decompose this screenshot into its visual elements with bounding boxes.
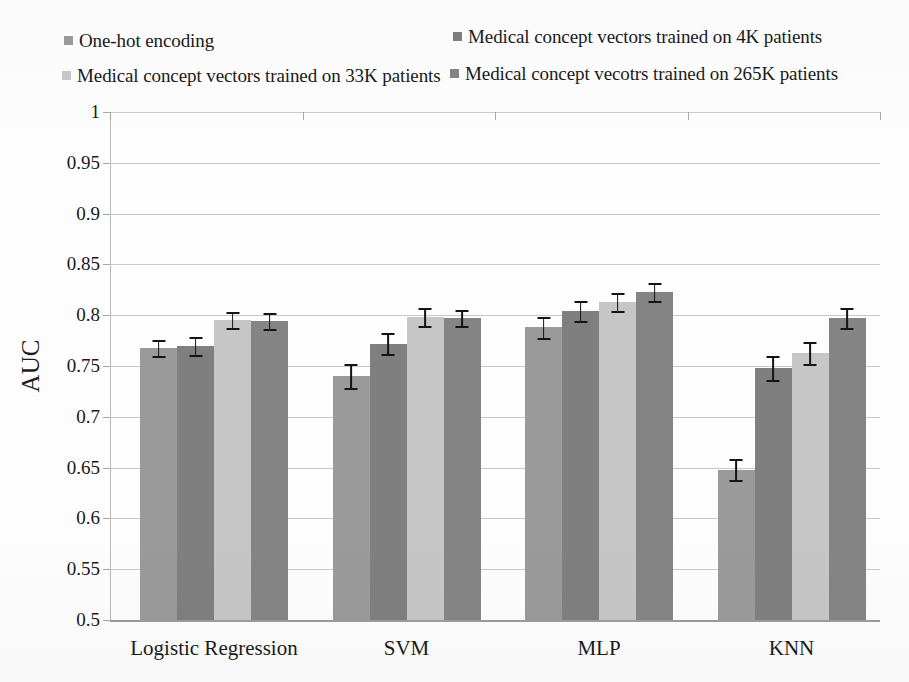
error-bar-cap-top bbox=[841, 308, 854, 310]
error-bar bbox=[232, 312, 234, 328]
bar[interactable] bbox=[140, 112, 177, 620]
bar[interactable] bbox=[718, 112, 755, 620]
y-axis-title-text: AUC bbox=[17, 340, 45, 393]
y-axis-tick-label: 0.6 bbox=[76, 507, 100, 529]
error-bar-cap-top bbox=[456, 310, 469, 312]
legend-label-33k: Medical concept vectors trained on 33K p… bbox=[77, 66, 441, 85]
error-bar-cap-top bbox=[804, 342, 817, 344]
error-bar bbox=[195, 337, 197, 355]
y-axis-tick-label: 0.7 bbox=[76, 406, 100, 428]
y-axis-tick-label: 0.75 bbox=[67, 355, 100, 377]
error-bar-cap-bottom bbox=[648, 301, 661, 303]
x-axis-tick-mark bbox=[688, 112, 689, 120]
bar[interactable] bbox=[599, 112, 636, 620]
bar-rect bbox=[829, 318, 866, 620]
y-axis-tick-mark bbox=[103, 620, 110, 621]
bar[interactable] bbox=[407, 112, 444, 620]
error-bar-cap-top bbox=[537, 317, 550, 319]
error-bar bbox=[350, 364, 352, 388]
legend-label-265k: Medical concept vecotrs trained on 265K … bbox=[465, 64, 838, 83]
bar-group bbox=[140, 112, 288, 620]
bar[interactable] bbox=[792, 112, 829, 620]
legend-swatch-one-hot-icon bbox=[64, 36, 73, 45]
y-axis-tick-mark bbox=[103, 468, 110, 469]
y-axis-tick-mark bbox=[103, 264, 110, 265]
error-bar bbox=[158, 340, 160, 356]
bar[interactable] bbox=[370, 112, 407, 620]
bar[interactable] bbox=[636, 112, 673, 620]
bar[interactable] bbox=[562, 112, 599, 620]
x-axis-tick-mark bbox=[303, 112, 304, 120]
bar-rect bbox=[370, 344, 407, 620]
legend-swatch-265k-icon bbox=[450, 69, 459, 78]
x-axis-line bbox=[110, 620, 880, 622]
error-bar bbox=[580, 301, 582, 321]
error-bar bbox=[809, 342, 811, 364]
bar-rect bbox=[444, 318, 481, 620]
legend-item-4k-patients[interactable]: Medical concept vectors trained on 4K pa… bbox=[453, 27, 822, 46]
bar[interactable] bbox=[755, 112, 792, 620]
error-bar-cap-top bbox=[189, 337, 202, 339]
error-bar-cap-bottom bbox=[611, 311, 624, 313]
error-bar-cap-top bbox=[263, 313, 276, 315]
legend-swatch-4k-icon bbox=[453, 32, 462, 41]
bar[interactable] bbox=[214, 112, 251, 620]
error-bar bbox=[269, 313, 271, 329]
error-bar-cap-bottom bbox=[152, 356, 165, 358]
y-axis-tick-mark bbox=[103, 417, 110, 418]
bar-rect bbox=[214, 320, 251, 620]
bar[interactable] bbox=[525, 112, 562, 620]
bar[interactable] bbox=[829, 112, 866, 620]
bar[interactable] bbox=[333, 112, 370, 620]
error-bar-cap-top bbox=[226, 312, 239, 314]
category-label: SVM bbox=[384, 636, 430, 661]
error-bar bbox=[846, 308, 848, 328]
y-axis-tick-label: 0.55 bbox=[67, 558, 100, 580]
error-bar-cap-top bbox=[767, 356, 780, 358]
y-axis-tick-label: 0.85 bbox=[67, 253, 100, 275]
error-bar bbox=[617, 293, 619, 311]
bar-group bbox=[718, 112, 866, 620]
error-bar-cap-bottom bbox=[263, 329, 276, 331]
error-bar bbox=[654, 283, 656, 301]
error-bar-cap-bottom bbox=[456, 326, 469, 328]
legend-item-one-hot-encoding[interactable]: One-hot encoding bbox=[64, 31, 214, 50]
y-axis-tick-label: 0.5 bbox=[76, 609, 100, 631]
bar[interactable] bbox=[251, 112, 288, 620]
error-bar-cap-bottom bbox=[804, 364, 817, 366]
bar[interactable] bbox=[177, 112, 214, 620]
bar-rect bbox=[636, 292, 673, 620]
error-bar-cap-bottom bbox=[767, 380, 780, 382]
y-axis-tick-mark bbox=[103, 315, 110, 316]
category-label: MLP bbox=[577, 636, 620, 661]
error-bar-cap-top bbox=[648, 283, 661, 285]
error-bar-cap-top bbox=[152, 340, 165, 342]
x-axis-tick-mark bbox=[110, 112, 111, 120]
error-bar-cap-bottom bbox=[730, 480, 743, 482]
bar-rect bbox=[407, 317, 444, 620]
error-bar-cap-top bbox=[730, 459, 743, 461]
chart-legend: One-hot encoding Medical concept vectors… bbox=[0, 0, 909, 96]
error-bar bbox=[735, 459, 737, 479]
error-bar-cap-bottom bbox=[226, 328, 239, 330]
y-axis-tick-label: 1 bbox=[91, 101, 101, 123]
error-bar-cap-bottom bbox=[537, 338, 550, 340]
bar-rect bbox=[333, 376, 370, 620]
y-axis-tick-mark bbox=[103, 112, 110, 113]
y-axis-tick-label: 0.95 bbox=[67, 152, 100, 174]
error-bar bbox=[543, 317, 545, 337]
category-label: Logistic Regression bbox=[130, 636, 297, 661]
error-bar-cap-top bbox=[419, 308, 432, 310]
bar-rect bbox=[177, 346, 214, 620]
y-axis-title: AUC bbox=[14, 112, 48, 620]
error-bar-cap-bottom bbox=[345, 388, 358, 390]
bar[interactable] bbox=[444, 112, 481, 620]
error-bar-cap-bottom bbox=[574, 321, 587, 323]
y-axis-tick-label: 0.65 bbox=[67, 457, 100, 479]
legend-item-33k-patients[interactable]: Medical concept vectors trained on 33K p… bbox=[62, 66, 441, 85]
bar-rect bbox=[251, 321, 288, 620]
y-axis-tick-mark bbox=[103, 569, 110, 570]
legend-item-265k-patients[interactable]: Medical concept vecotrs trained on 265K … bbox=[450, 64, 838, 83]
error-bar-cap-bottom bbox=[841, 328, 854, 330]
legend-swatch-33k-icon bbox=[62, 71, 71, 80]
